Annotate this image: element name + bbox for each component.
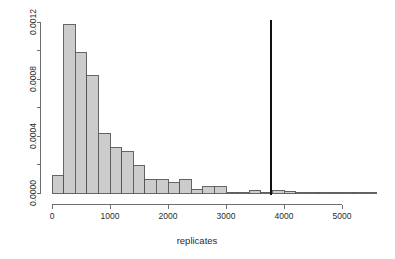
histogram-bar [296,192,308,193]
plot-canvas: 0.00000.00040.00080.0012 010002000300040… [0,0,395,259]
y-axis-tick-label: 0.0008 [28,66,38,92]
histogram-bar [122,152,134,193]
y-axis-tick-label: 0.0000 [28,180,38,206]
histogram-bar [365,192,377,193]
histogram-bar [145,179,157,193]
x-axis-tick-label: 1000 [101,211,120,221]
histogram-bar [238,192,250,193]
histogram-bar [284,191,296,193]
histogram-bar [191,190,203,193]
histogram-bar [98,133,110,193]
histogram-bar [180,179,192,193]
histogram-bar [272,191,284,193]
x-axis-tick-label: 5000 [333,211,352,221]
y-axis-tick-label: 0.0004 [28,123,38,149]
histogram-bar [330,192,342,193]
histogram-bar [64,25,76,193]
histogram-bar [203,187,215,193]
y-axis-tick-label: 0.0012 [28,9,38,35]
histogram-bar [87,76,99,193]
x-axis-title: replicates [177,235,218,246]
histogram-plot: 0.00000.00040.00080.0012 010002000300040… [0,0,395,259]
histogram-bar [226,192,238,193]
x-axis-tick-label: 2000 [159,211,178,221]
x-axis-tick-label: 0 [50,211,55,221]
x-axis-tick-label: 3000 [217,211,236,221]
histogram-bar [307,192,319,193]
histogram-bar [52,176,64,193]
histogram-bar [342,192,354,193]
histogram-bar [156,180,168,193]
histogram-bar [249,190,261,193]
x-axis-tick-label: 4000 [275,211,294,221]
histogram-bar [133,166,145,193]
histogram-bar [110,148,122,193]
histogram-bar [168,183,180,193]
histogram-bar [75,53,87,193]
histogram-bar [319,192,331,193]
histogram-bar [214,187,226,193]
histogram-bar [354,192,366,193]
